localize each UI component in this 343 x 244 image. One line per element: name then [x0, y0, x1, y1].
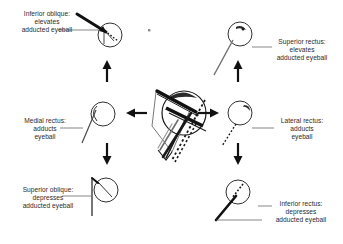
label-superior-rectus: Superior rectus: elevates adducted eyeba… — [262, 38, 342, 63]
eyeball-inferior-rectus-globe — [226, 180, 250, 204]
label-lateral-rectus-line2: adducts — [263, 125, 341, 133]
superior-oblique-trochlea-bend — [92, 178, 98, 183]
extraocular-muscle-diagram: Inferior oblique: elevates adducted eyeb… — [0, 0, 343, 244]
label-superior-oblique-line2: depresses — [6, 194, 90, 202]
arrow-down-left — [103, 143, 112, 165]
label-medial-rectus-line1: Medial rectus: — [6, 117, 84, 125]
label-superior-oblique-line3: adducted eyeball — [6, 202, 90, 210]
arrow-up-left — [103, 60, 112, 82]
label-lateral-rectus: Lateral rectus: adducts eyeball — [263, 117, 341, 142]
label-medial-rectus: Medial rectus: adducts eyeball — [6, 117, 84, 142]
superior-rectus-pull-line — [214, 40, 233, 75]
label-inferior-rectus-line1: Inferior rectus: — [261, 200, 341, 208]
arrow-left — [126, 109, 147, 118]
orbit-muscle-cone-diagram — [152, 91, 206, 162]
label-inferior-oblique: Inferior oblique: elevates adducted eyeb… — [6, 10, 88, 35]
arrow-down-right — [234, 143, 243, 165]
stray-mark — [148, 29, 150, 31]
label-superior-rectus-line1: Superior rectus: — [262, 38, 342, 46]
inferior-rectus-pull-line — [216, 196, 236, 220]
label-superior-rectus-line3: adducted eyeball — [262, 54, 342, 62]
eyeball-inferior-oblique-globe — [98, 23, 122, 47]
eyeball-lateral-rectus-globe — [228, 101, 252, 125]
label-inferior-oblique-line2: elevates — [6, 18, 88, 26]
label-lateral-rectus-line1: Lateral rectus: — [263, 117, 341, 125]
superior-rectus-pupil-dot — [242, 28, 245, 31]
label-lateral-rectus-line3: eyeball — [263, 133, 341, 141]
label-superior-rectus-line2: elevates — [262, 46, 342, 54]
medial-rectus-pull-line — [82, 110, 96, 143]
label-superior-oblique-line1: Superior oblique: — [6, 186, 90, 194]
label-medial-rectus-line3: eyeball — [6, 133, 84, 141]
lateral-rectus-dotted-pull — [222, 124, 236, 146]
label-inferior-oblique-line3: adducted eyeball — [6, 26, 88, 34]
label-inferior-rectus-line2: depresses — [261, 208, 341, 216]
label-inferior-rectus-line3: adducted eyeball — [261, 216, 341, 224]
arrow-up-right — [234, 60, 243, 82]
label-superior-oblique: Superior oblique: depresses adducted eye… — [6, 186, 90, 211]
label-inferior-rectus: Inferior rectus: depresses adducted eyeb… — [261, 200, 341, 225]
label-inferior-oblique-line1: Inferior oblique: — [6, 10, 88, 18]
label-medial-rectus-line2: adducts — [6, 125, 84, 133]
